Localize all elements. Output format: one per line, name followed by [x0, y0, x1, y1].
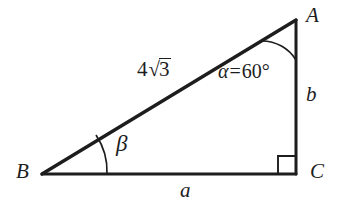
side-label-a-base: a	[180, 180, 191, 201]
side-label-b-vertical: b	[306, 84, 317, 105]
radical-group: √3	[148, 58, 171, 80]
vertex-label-c: C	[310, 161, 324, 182]
vertex-label-a: A	[306, 5, 319, 26]
degree-sign-icon: °	[262, 60, 270, 82]
right-angle-marker-at-c	[278, 156, 296, 174]
angle-arc-alpha-at-a	[262, 41, 296, 60]
hypotenuse-coefficient: 4	[137, 57, 148, 81]
vertex-label-b: B	[16, 161, 29, 182]
triangle-drawing	[0, 0, 343, 204]
equals-sign: =	[229, 60, 242, 82]
angle-label-alpha: α=60°	[218, 61, 270, 81]
side-label-hypotenuse-length: 4√3	[137, 58, 171, 80]
side-ab-hypotenuse-line	[42, 20, 296, 174]
alpha-value: 60	[242, 60, 262, 82]
geometry-figure: A B C a b 4√3 α=60° β	[0, 0, 343, 204]
alpha-symbol: α	[218, 60, 229, 82]
radicand-value: 3	[159, 58, 171, 80]
angle-label-beta: β	[116, 132, 127, 155]
